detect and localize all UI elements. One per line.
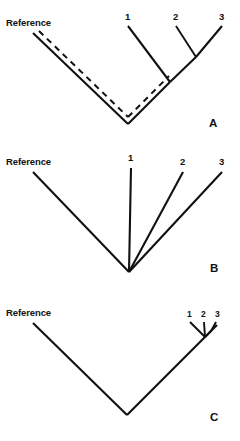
panel-c-branch-tip-1	[190, 322, 205, 337]
panel-b-lines	[33, 168, 222, 272]
panel-c-reference-branch	[33, 323, 127, 415]
panel-a-lines	[33, 26, 222, 124]
panel-c-reference-label: Reference	[6, 308, 51, 318]
panel-c-cluster-node-stem	[205, 331, 211, 337]
panel-a-reference-label: Reference	[6, 18, 51, 28]
panel-a-panel-label: A	[209, 118, 217, 130]
panel-c-root-to-cluster	[127, 325, 217, 415]
panel-c-tip-label-3: 3	[215, 310, 220, 319]
panel-b-reference-branch	[33, 172, 129, 272]
panel-a-tip-label-3: 3	[219, 12, 224, 22]
panel-c-tip-label-1: 1	[187, 310, 192, 319]
panel-a-dashed-root-to-node1	[128, 76, 169, 117]
figure-root: Reference 1 2 3 A Reference 1 2 3 B Refe…	[0, 0, 240, 441]
panel-c-tip-label-2: 2	[201, 310, 206, 319]
panel-b-reference-label: Reference	[6, 157, 51, 167]
panel-a-tip-label-2: 2	[173, 12, 178, 22]
panel-a-tip-label-1: 1	[125, 12, 130, 22]
panel-b-tip-label-3: 3	[219, 157, 224, 167]
panel-c-panel-label: C	[210, 412, 218, 424]
panel-a-branch-tip-2	[176, 26, 196, 57]
panel-c-branch-tip-2	[204, 322, 205, 337]
panel-b-tip-label-1: 1	[128, 153, 133, 163]
tree-lines-svg	[0, 0, 240, 441]
panel-a-branch-tip-1	[128, 26, 170, 82]
panel-b-panel-label: B	[210, 263, 218, 275]
panel-b-tip-label-2: 2	[180, 157, 185, 167]
panel-b-branch-tip-1	[129, 168, 131, 272]
panel-a-dashed-reference-branch	[39, 31, 128, 117]
panel-a-reference-branch	[33, 33, 128, 124]
panel-c-lines	[33, 322, 217, 415]
panel-a-branch-tip-3	[196, 26, 222, 57]
panel-a-node1-to-node2	[170, 57, 196, 82]
panel-a-root-to-node1	[128, 82, 170, 124]
